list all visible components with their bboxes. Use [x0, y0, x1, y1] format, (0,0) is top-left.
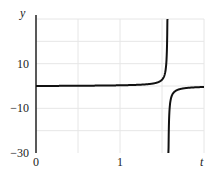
- tick-labels: 0110−10−30: [10, 57, 123, 169]
- y-tick-label: 10: [17, 57, 29, 71]
- x-tick-label: 0: [33, 155, 39, 169]
- y-tick-label: −30: [10, 146, 29, 160]
- x-axis-label: t: [200, 155, 204, 169]
- y-axis-label: y: [19, 6, 26, 20]
- x-tick-label: 1: [117, 155, 123, 169]
- chart: 0110−10−30 t y: [0, 0, 214, 172]
- y-tick-label: −10: [10, 101, 29, 115]
